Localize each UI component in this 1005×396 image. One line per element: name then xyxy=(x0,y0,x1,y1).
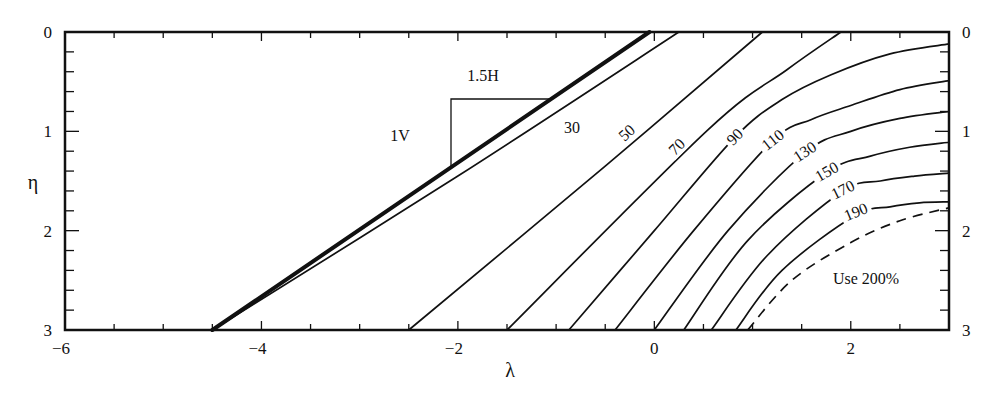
y-axis-label: η xyxy=(28,171,38,194)
slope-v-label: 1V xyxy=(390,127,410,144)
x-tick-label: −6 xyxy=(52,339,70,358)
region-label: Use 200% xyxy=(833,270,899,287)
curve-label-150: 150 xyxy=(812,158,841,185)
curve-30 xyxy=(212,32,679,330)
axis-ticks xyxy=(65,32,949,330)
curve-label-30: 30 xyxy=(564,119,580,136)
x-tick-label: −4 xyxy=(248,339,267,358)
curve-label-110: 110 xyxy=(758,126,787,154)
x-axis-label: λ xyxy=(505,359,515,381)
slope-h-label: 1.5H xyxy=(467,67,499,84)
curve-label-190: 190 xyxy=(842,199,871,224)
right-y-tick-label: 0 xyxy=(962,23,971,42)
plot-frame xyxy=(65,32,949,330)
x-tick-label: 0 xyxy=(650,339,659,358)
right-y-tick-label: 2 xyxy=(962,222,971,241)
y-tick-label: 2 xyxy=(44,222,53,241)
curve-70 xyxy=(507,32,841,330)
curve-labels: 30507090110130150170190 xyxy=(564,119,870,224)
y-tick-label: 0 xyxy=(44,23,53,42)
curve-label-70: 70 xyxy=(665,135,688,158)
right-y-tick-label: 1 xyxy=(962,122,971,141)
curve-200 xyxy=(748,208,949,330)
contour-chart: −6−4−20201230123 30507090110130150170190… xyxy=(0,0,1005,396)
right-y-tick-label: 3 xyxy=(962,321,971,340)
x-tick-label: −2 xyxy=(445,339,463,358)
curve-90 xyxy=(569,44,949,330)
curve-170 xyxy=(711,173,949,330)
y-tick-label: 3 xyxy=(44,321,53,340)
y-tick-label: 1 xyxy=(44,122,53,141)
x-tick-label: 2 xyxy=(847,339,856,358)
curve-slope xyxy=(212,32,649,330)
